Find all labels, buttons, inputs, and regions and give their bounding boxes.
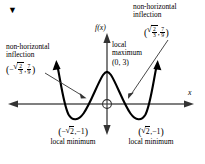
origin-marker-icon xyxy=(102,99,112,109)
annotation-inflection-right: non-horizontal inflection xyxy=(133,3,205,20)
fraction-two-thirds: 23 xyxy=(18,64,23,76)
paren-close: ) xyxy=(166,27,169,38)
coordinate-inflection-left: (−23,79) xyxy=(6,62,35,76)
coordinate-local-min-left: (−2,−1) xyxy=(36,126,110,138)
coordinate-local-maximum: (0, 3) xyxy=(112,59,129,68)
coordinate-inflection-right: (23,79) xyxy=(144,25,169,39)
annotation-local-maximum-line2: maximum xyxy=(112,49,158,57)
x-axis-label: x xyxy=(188,89,191,98)
y-axis xyxy=(103,33,110,135)
y-axis-label: f(x) xyxy=(95,24,106,33)
paren-close: ) xyxy=(85,126,88,137)
x-axis xyxy=(8,100,194,107)
paren-close: ) xyxy=(32,64,35,75)
annotation-local-min-right: (2,−1) local minimum xyxy=(112,126,190,146)
sqrt-icon: 23 xyxy=(14,62,25,76)
sqrt-icon: 2 xyxy=(66,126,75,136)
section-marker-icon: ▼ xyxy=(8,6,15,15)
math-figure-canvas: ▼ f(x) x non-horizontal inflection (−23,… xyxy=(0,0,205,164)
annotation-local-maximum: local maximum xyxy=(112,41,158,58)
annotation-inflection-left: non-horizontal inflection xyxy=(6,43,84,60)
coordinate-local-min-right: (2,−1) xyxy=(112,126,190,138)
annotation-inflection-right-line2: inflection xyxy=(133,11,205,19)
y-value: −1 xyxy=(76,127,84,136)
sqrt-icon: 23 xyxy=(147,25,158,39)
fraction-seven-ninths: 79 xyxy=(160,27,165,39)
y-axis-label-text: f(x) xyxy=(95,23,106,32)
fraction-seven-ninths: 79 xyxy=(27,64,32,76)
paren-close: ) xyxy=(160,126,163,137)
caption-local-min-right: local minimum xyxy=(112,138,190,146)
annotation-inflection-left-line2: inflection xyxy=(6,51,84,59)
annotation-arrow-left xyxy=(45,73,87,99)
fraction-two-thirds: 23 xyxy=(152,27,157,39)
annotation-local-min-left: (−2,−1) local minimum xyxy=(36,126,110,146)
sqrt-icon: 2 xyxy=(142,126,151,136)
caption-local-min-left: local minimum xyxy=(36,138,110,146)
